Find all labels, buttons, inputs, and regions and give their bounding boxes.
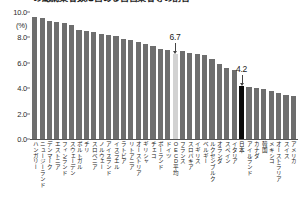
bar[interactable]	[84, 31, 89, 139]
x-label-slot: ドイツ	[164, 141, 171, 203]
x-axis-tick-label: スロバキア	[187, 141, 193, 203]
bar[interactable]	[99, 34, 104, 139]
x-axis-tick-label: ノルウェー	[98, 141, 104, 203]
data-label-value: 4.2	[236, 64, 247, 74]
x-label-slot: ポーランド	[157, 141, 164, 203]
y-axis: (%) 10.08.06.04.02.00.0	[0, 12, 30, 140]
x-label-slot: オーストリア	[134, 141, 141, 203]
x-axis-tick-label: カナダ	[254, 141, 260, 203]
x-axis-tick-label: ベルギー	[202, 141, 208, 203]
x-axis-tick-label: エストニア	[54, 141, 60, 203]
bar-slot	[260, 12, 267, 139]
bar[interactable]	[291, 96, 296, 139]
bar[interactable]	[180, 51, 185, 139]
bar[interactable]	[143, 44, 148, 139]
bar-slot	[253, 12, 260, 139]
bar-slot	[282, 12, 289, 139]
bar[interactable]	[246, 87, 251, 139]
bar[interactable]	[158, 49, 163, 139]
bar[interactable]	[254, 88, 259, 139]
bar[interactable]	[283, 95, 288, 139]
x-label-slot: アイスランド	[105, 141, 112, 203]
chart-title-strip: の総就業者数に占める自営業者等の割合	[0, 0, 300, 7]
x-label-slot: スウェーデン	[68, 141, 75, 203]
bar[interactable]	[69, 25, 74, 139]
bar-slot	[231, 12, 238, 139]
x-axis-tick-label: フランス	[180, 141, 186, 203]
x-label-slot: チェコ	[149, 141, 156, 203]
bar[interactable]	[128, 40, 133, 139]
bar[interactable]	[40, 18, 45, 139]
bar[interactable]	[54, 22, 59, 139]
bar[interactable]	[276, 93, 281, 139]
x-axis-tick-label: ギリシャ	[143, 141, 149, 203]
bar[interactable]	[202, 55, 207, 139]
x-label-slot: デンマーク	[46, 141, 53, 203]
bar-slot	[201, 12, 208, 139]
plot-area: 6.74.2	[31, 12, 297, 140]
x-axis-line	[30, 139, 298, 140]
x-label-slot: アイルランド	[245, 141, 252, 203]
bar[interactable]	[150, 46, 155, 139]
x-axis-tick-label: スロベニア	[91, 141, 97, 203]
x-label-slot: イタリア	[231, 141, 238, 203]
bar[interactable]	[136, 42, 141, 139]
bar[interactable]	[106, 35, 111, 139]
x-label-slot: フィンランド	[61, 141, 68, 203]
bar[interactable]	[217, 64, 222, 139]
x-axis-tick-label: スペイン	[224, 141, 230, 203]
x-axis-tick-label: 韓国	[261, 141, 267, 203]
x-label-slot: スロベニア	[90, 141, 97, 203]
bar[interactable]	[62, 23, 67, 139]
y-axis-tick-label: 8.0	[17, 33, 27, 42]
x-axis-tick-label: アイルランド	[246, 141, 252, 203]
x-label-slot: ハンガリー	[31, 141, 38, 203]
bar-slot	[186, 12, 193, 139]
x-label-slot: オランダ	[216, 141, 223, 203]
bar-slot	[112, 12, 119, 139]
x-axis-tick-label: アメリカ	[291, 141, 297, 203]
bar[interactable]	[261, 89, 266, 139]
bar[interactable]	[32, 17, 37, 139]
bar-slot	[120, 12, 127, 139]
bar[interactable]	[209, 59, 214, 139]
bar-slot	[194, 12, 201, 139]
bar-slot	[134, 12, 141, 139]
bar-slot	[223, 12, 230, 139]
x-label-slot: メキシコ	[268, 141, 275, 203]
y-axis-tick-label: 10.0	[13, 8, 27, 17]
bar[interactable]	[269, 91, 274, 139]
x-label-slot: カナダ	[253, 141, 260, 203]
bar-slot	[75, 12, 82, 139]
bar-slot	[216, 12, 223, 139]
x-axis-tick-label: オーストラリア	[276, 141, 282, 203]
bar[interactable]	[173, 54, 178, 139]
bar[interactable]	[91, 32, 96, 139]
bar[interactable]	[76, 30, 81, 139]
y-axis-tick-mark	[27, 12, 30, 13]
bar-slot	[46, 12, 53, 139]
bar[interactable]	[232, 70, 237, 139]
bar-slot	[127, 12, 134, 139]
x-label-slot: フランス	[179, 141, 186, 203]
bar-slot	[61, 12, 68, 139]
bar[interactable]	[113, 36, 118, 139]
bar[interactable]	[239, 86, 244, 139]
bar[interactable]	[121, 39, 126, 139]
x-label-slot: アメリカ	[290, 141, 297, 203]
bar[interactable]	[165, 50, 170, 139]
x-axis-tick-label: リトアニア	[128, 141, 134, 203]
x-axis-tick-label: イタリア	[231, 141, 237, 203]
bar[interactable]	[224, 68, 229, 139]
x-axis-tick-label: ポーランド	[157, 141, 163, 203]
bar-slot	[245, 12, 252, 139]
bar[interactable]	[47, 21, 52, 139]
y-axis-tick-label: 2.0	[17, 109, 27, 118]
x-axis-tick-label: ポルトガル	[76, 141, 82, 203]
data-label-value: 6.7	[170, 32, 181, 42]
x-axis-tick-label: OECD平均	[172, 141, 178, 203]
x-label-slot: エストニア	[53, 141, 60, 203]
bar[interactable]	[187, 53, 192, 139]
x-label-slot: リトアニア	[127, 141, 134, 203]
bar[interactable]	[195, 54, 200, 139]
